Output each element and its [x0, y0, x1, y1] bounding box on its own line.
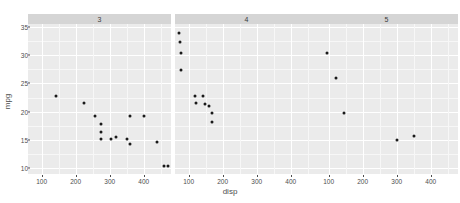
data-point [180, 51, 183, 54]
grid-line-vertical [76, 24, 77, 174]
grid-line-vertical-minor [161, 24, 162, 174]
y-tick-label: 20 [21, 108, 28, 115]
y-tick-mark [28, 26, 30, 27]
grid-line-horizontal-minor [315, 69, 458, 70]
data-point [334, 76, 337, 79]
grid-line-horizontal-minor [28, 154, 171, 155]
grid-line-vertical [291, 24, 292, 174]
grid-line-vertical [363, 24, 364, 174]
grid-line-vertical-minor [448, 24, 449, 174]
data-point [100, 123, 103, 126]
grid-line-horizontal [28, 112, 171, 113]
x-tick-label: 100 [36, 178, 47, 185]
y-tick-label: 10 [21, 165, 28, 172]
data-point [167, 165, 170, 168]
x-tick-mark [397, 175, 398, 177]
grid-line-vertical [42, 24, 43, 174]
x-tick-label: 400 [425, 178, 436, 185]
grid-line-horizontal-minor [175, 41, 318, 42]
x-tick-label: 200 [70, 178, 81, 185]
data-point [210, 112, 213, 115]
grid-line-horizontal-minor [28, 69, 171, 70]
grid-line-horizontal-minor [175, 154, 318, 155]
grid-line-vertical [189, 24, 190, 174]
data-point [396, 139, 399, 142]
data-point [129, 115, 132, 118]
grid-line-horizontal [28, 55, 171, 56]
grid-line-horizontal-minor [315, 98, 458, 99]
data-point [180, 69, 183, 72]
x-tick-label: 400 [285, 178, 296, 185]
x-tick-label: 100 [183, 178, 194, 185]
grid-line-horizontal [28, 168, 171, 169]
y-tick-label: 25 [21, 80, 28, 87]
grid-line-vertical-minor [93, 24, 94, 174]
faceted-scatter-plot: mpg 101520253035 disp 310020030040041002… [0, 0, 460, 203]
facet-panel-5 [315, 24, 458, 174]
x-axis-title: disp [0, 187, 460, 196]
grid-line-horizontal-minor [315, 41, 458, 42]
grid-line-vertical [223, 24, 224, 174]
x-tick-mark [363, 175, 364, 177]
grid-line-horizontal [175, 168, 318, 169]
grid-line-vertical [329, 24, 330, 174]
x-tick-label: 200 [217, 178, 228, 185]
x-tick-mark [257, 175, 258, 177]
x-tick-mark [42, 175, 43, 177]
grid-line-horizontal-minor [175, 126, 318, 127]
data-point [194, 94, 197, 97]
data-point [201, 94, 204, 97]
grid-line-horizontal-minor [315, 126, 458, 127]
data-point [83, 102, 86, 105]
grid-line-horizontal-minor [28, 98, 171, 99]
y-tick-label: 15 [21, 137, 28, 144]
y-axis-title: mpg [2, 0, 14, 203]
data-point [100, 137, 103, 140]
data-point [54, 94, 57, 97]
data-point [110, 137, 113, 140]
x-tick-label: 300 [251, 178, 262, 185]
grid-line-vertical-minor [240, 24, 241, 174]
grid-line-vertical-minor [127, 24, 128, 174]
data-point [194, 102, 197, 105]
grid-line-horizontal-minor [175, 98, 318, 99]
data-point [125, 137, 128, 140]
x-tick-label: 300 [391, 178, 402, 185]
grid-line-horizontal-minor [28, 126, 171, 127]
grid-line-vertical-minor [380, 24, 381, 174]
facet-strip-label: 4 [175, 14, 318, 24]
facet-panel-3 [28, 24, 171, 174]
grid-line-horizontal [315, 168, 458, 169]
y-tick-mark [28, 111, 30, 112]
grid-line-horizontal [28, 140, 171, 141]
x-tick-mark [431, 175, 432, 177]
data-point [413, 134, 416, 137]
y-axis-ticks: 101520253035 [14, 0, 28, 203]
grid-line-vertical-minor [206, 24, 207, 174]
grid-line-horizontal-minor [315, 154, 458, 155]
grid-line-horizontal [315, 27, 458, 28]
grid-line-horizontal [175, 140, 318, 141]
x-tick-label: 100 [323, 178, 334, 185]
x-tick-label: 400 [138, 178, 149, 185]
grid-line-vertical-minor [414, 24, 415, 174]
y-axis-title-text: mpg [4, 94, 13, 110]
grid-line-vertical-minor [308, 24, 309, 174]
data-point [100, 131, 103, 134]
grid-line-horizontal [315, 112, 458, 113]
data-point [177, 32, 180, 35]
grid-line-vertical-minor [59, 24, 60, 174]
grid-line-horizontal [175, 83, 318, 84]
x-tick-mark [144, 175, 145, 177]
x-tick-mark [291, 175, 292, 177]
facet-strip-label: 5 [315, 14, 458, 24]
y-tick-mark [28, 83, 30, 84]
grid-line-horizontal [315, 83, 458, 84]
y-tick-label: 30 [21, 52, 28, 59]
data-point [210, 121, 213, 124]
data-point [342, 112, 345, 115]
x-tick-label: 200 [357, 178, 368, 185]
x-tick-mark [76, 175, 77, 177]
data-point [156, 140, 159, 143]
x-tick-mark [110, 175, 111, 177]
